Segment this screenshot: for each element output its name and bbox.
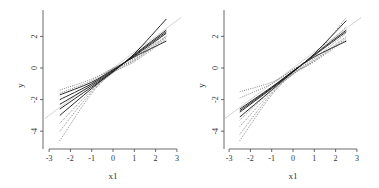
x-axis-title: x1: [109, 171, 118, 181]
y-axis-title: y: [196, 83, 206, 88]
x-tick-label: -3: [46, 154, 53, 163]
x-tick-label: -1: [88, 154, 95, 163]
x-tick-label: 1: [312, 154, 316, 163]
left-panel: -3-2-10123-4-202x1y: [15, 10, 181, 181]
x-tick-label: 2: [154, 154, 158, 163]
series-dotted-2: [240, 17, 346, 98]
y-tick-label: 0: [211, 66, 220, 70]
y-tick-label: -2: [30, 96, 39, 103]
series-dotted-3: [60, 33, 167, 123]
x-tick-label: 1: [132, 154, 136, 163]
plot-area: [45, 17, 181, 140]
series-solid-2: [240, 32, 346, 111]
x-tick-label: 3: [355, 154, 359, 163]
plot-area: [225, 17, 361, 140]
x-axis-title: x1: [289, 171, 298, 181]
y-tick-label: -4: [30, 128, 39, 135]
y-tick-label: 0: [30, 66, 39, 70]
series-dotted-3: [240, 33, 346, 120]
x-tick-label: 2: [334, 154, 338, 163]
x-tick-label: -2: [67, 154, 74, 163]
y-axis-title: y: [15, 83, 25, 88]
y-tick-label: 2: [30, 34, 39, 38]
y-tick-label: 2: [211, 34, 220, 38]
reference-line: [225, 17, 361, 118]
series-solid-5: [60, 19, 167, 115]
x-tick-label: 3: [175, 154, 179, 163]
x-tick-label: -2: [247, 154, 254, 163]
y-tick-label: -4: [211, 128, 220, 135]
right-panel: -3-2-10123-4-202x1y: [196, 10, 361, 181]
y-tick-label: -2: [211, 96, 220, 103]
x-tick-label: 0: [111, 154, 115, 163]
series-dotted-5: [60, 40, 167, 141]
chart-canvas: -3-2-10123-4-202x1y-3-2-10123-4-202x1y: [0, 0, 379, 188]
x-tick-label: 0: [291, 154, 295, 163]
series-dotted-6: [240, 40, 346, 141]
series-dotted-1: [240, 27, 346, 92]
series-dotted-5: [240, 38, 346, 134]
series-solid-4: [240, 21, 346, 117]
x-tick-label: -1: [268, 154, 275, 163]
x-tick-label: -3: [226, 154, 233, 163]
